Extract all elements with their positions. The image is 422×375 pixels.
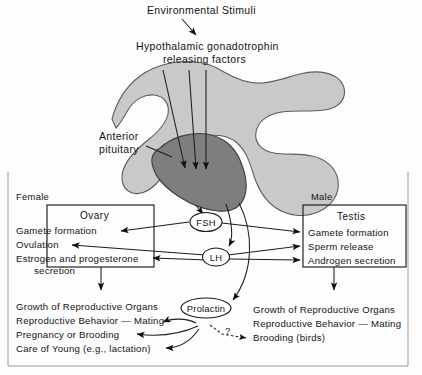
question-mark-label: ? — [225, 325, 230, 336]
prolactin-node: Prolactin — [181, 298, 231, 318]
male-box-item-1: Sperm release — [308, 241, 374, 252]
endocrine-reproduction-diagram: Environmental Stimuli Hypothalamic gonad… — [0, 0, 422, 375]
ovary-box-title: Ovary — [80, 210, 109, 221]
male-sex-label: Male — [311, 191, 333, 202]
fsh-to-testis-arrow — [222, 223, 300, 232]
prolactin-to-brooding-dashed-arrow: ? — [210, 325, 246, 338]
female-sex-label: Female — [16, 191, 49, 202]
male-outcome-0: Growth of Reproductive Organs — [253, 304, 395, 315]
female-box-item-1: Ovulation — [16, 239, 59, 250]
female-outcome-3: Care of Young (e.g., lactation) — [16, 343, 151, 354]
lh-to-sperm-arrow — [228, 246, 300, 255]
female-box-item-2: Estrogen and progesterone — [16, 253, 139, 264]
male-box-item-2: Androgen secretion — [308, 255, 396, 266]
female-outcome-2: Pregnancy or Brooding — [16, 329, 119, 340]
male-outcome-2: Brooding (birds) — [253, 332, 325, 343]
pituitary-to-prolactin-arrow — [233, 203, 250, 300]
prolactin-to-mating-arrow — [163, 319, 196, 323]
fsh-label: FSH — [196, 217, 215, 228]
female-box-item-3: secretion — [34, 265, 75, 276]
lh-node: LH — [203, 248, 230, 266]
anterior-pituitary-line2: pituitary — [99, 143, 139, 155]
anterior-pituitary-line1: Anterior — [99, 130, 139, 142]
fsh-node: FSH — [190, 213, 222, 232]
prolactin-label: Prolactin — [187, 303, 225, 314]
environmental-stimuli-arrow — [182, 19, 196, 35]
testis-box-title: Testis — [337, 211, 366, 222]
environmental-stimuli-label: Environmental Stimuli — [147, 4, 256, 16]
female-outcome-1: Reproductive Behavior — Mating — [16, 315, 164, 326]
female-outcome-0: Growth of Reproductive Organs — [16, 301, 158, 312]
anterior-pituitary-shape — [152, 134, 246, 212]
male-outcome-1: Reproductive Behavior — Mating — [253, 318, 401, 329]
hypothalamic-factors-line2: releasing factors — [163, 53, 246, 65]
lh-to-androgen-arrow — [228, 259, 300, 260]
fsh-to-ovary-arrow — [121, 222, 189, 231]
lh-label: LH — [210, 252, 222, 263]
female-box-item-0: Gamete formation — [16, 225, 97, 236]
figure-canvas: Environmental Stimuli Hypothalamic gonad… — [0, 0, 422, 375]
prolactin-to-pregnancy-arrow — [137, 326, 198, 335]
male-box-item-0: Gamete formation — [308, 227, 389, 238]
hypothalamic-factors-line1: Hypothalamic gonadotrophin — [136, 40, 279, 52]
lh-to-estrogen-arrow — [153, 258, 208, 260]
